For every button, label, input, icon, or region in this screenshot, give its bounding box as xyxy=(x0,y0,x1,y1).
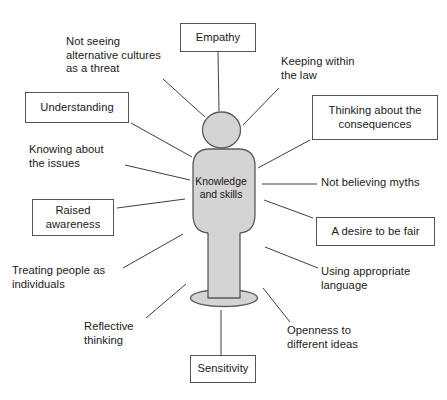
figure-head-circle xyxy=(203,112,241,148)
figure-body-shape xyxy=(193,149,255,298)
node-reflective-thinking: Reflective thinking xyxy=(84,320,159,347)
node-understanding[interactable]: Understanding xyxy=(25,92,129,123)
node-keeping-within-the-law: Keeping within the law xyxy=(281,55,385,82)
diagram-canvas: Knowledge and skills EmpathyNot seeing a… xyxy=(0,0,447,400)
node-knowing-about-the-issues: Knowing about the issues xyxy=(29,143,129,170)
node-treating-people-as-individuals: Treating people as individuals xyxy=(12,264,127,291)
node-openness-to-different-ideas: Openness to different ideas xyxy=(287,324,382,351)
node-not-seeing-alternative-cultures: Not seeing alternative cultures as a thr… xyxy=(66,35,181,76)
center-label-knowledge-and-skills: Knowledge and skills xyxy=(181,176,261,201)
node-thinking-about-the-consequences[interactable]: Thinking about the consequences xyxy=(312,95,438,140)
node-sensitivity[interactable]: Sensitivity xyxy=(190,355,256,383)
node-using-appropriate-language: Using appropriate language xyxy=(321,265,434,292)
node-a-desire-to-be-fair[interactable]: A desire to be fair xyxy=(316,217,435,246)
node-empathy[interactable]: Empathy xyxy=(180,23,256,52)
node-raised-awareness[interactable]: Raised awareness xyxy=(32,199,114,236)
node-not-believing-myths: Not believing myths xyxy=(321,176,436,190)
